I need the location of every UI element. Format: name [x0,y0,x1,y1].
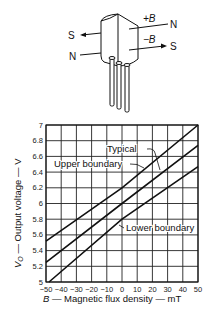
y-tick-label: 7 [39,121,43,130]
label-s-left: S [68,30,75,41]
y-tick-label: 6.2 [33,183,43,192]
y-tick-label: 5.8 [33,215,43,224]
figure: S N +B N −B S 55.25.45.65.866.26.46.66.8… [0,0,214,319]
arrow-left-icon [80,33,86,38]
y-tick-label: 6.4 [33,168,43,177]
label-n-left: N [69,51,76,62]
lower-boundary-leader [119,225,124,228]
arrow-right-icon [161,44,167,49]
annotation-lower-boundary: Lower boundary [126,222,194,233]
y-axis-title: VO — Output voltage — V [12,158,24,268]
lead-2 [117,63,121,109]
x-tick-label: 50 [194,285,202,294]
y-tick-label: 6 [39,199,43,208]
lead-1 [110,58,114,106]
y-tick-label: 5.2 [33,262,43,271]
annotation-typical: Typical [107,143,137,154]
annotation-upper-boundary: Upper boundary [54,158,122,169]
lead-3 [125,65,129,112]
y-tick-label: 6.8 [33,136,43,145]
label-n-top: N [170,19,177,30]
y-tick-label: 6.6 [33,152,43,161]
label-s-right: S [170,41,177,52]
label-plus-b: +B [143,13,156,24]
x-axis-title: B — Magnetic flux density — mT [43,293,182,304]
y-axis-ticks: 55.25.45.65.866.26.46.66.87 [33,121,43,287]
y-tick-label: 5.6 [33,230,43,239]
typical-leader [147,149,160,170]
y-tick-label: 5.4 [33,246,43,255]
label-minus-b: −B [143,34,156,45]
field-line-n-left [80,53,101,55]
hall-sensor-diagram [80,14,168,112]
